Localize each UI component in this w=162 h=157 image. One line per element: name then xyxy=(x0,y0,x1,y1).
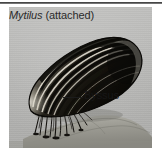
caption-state: (attached) xyxy=(43,9,94,21)
mussel-shell xyxy=(19,37,147,122)
figure-panel xyxy=(9,7,152,148)
caption-genus: Mytilus xyxy=(9,9,43,21)
byssus-label: Byssus xyxy=(84,89,119,101)
mussel-illustration xyxy=(9,7,152,148)
byssus-callout: Byssus xyxy=(63,85,141,105)
figure-caption: Mytilus (attached) xyxy=(9,9,94,21)
byssus-leader-line xyxy=(63,97,83,98)
page-top-rule xyxy=(0,2,162,4)
